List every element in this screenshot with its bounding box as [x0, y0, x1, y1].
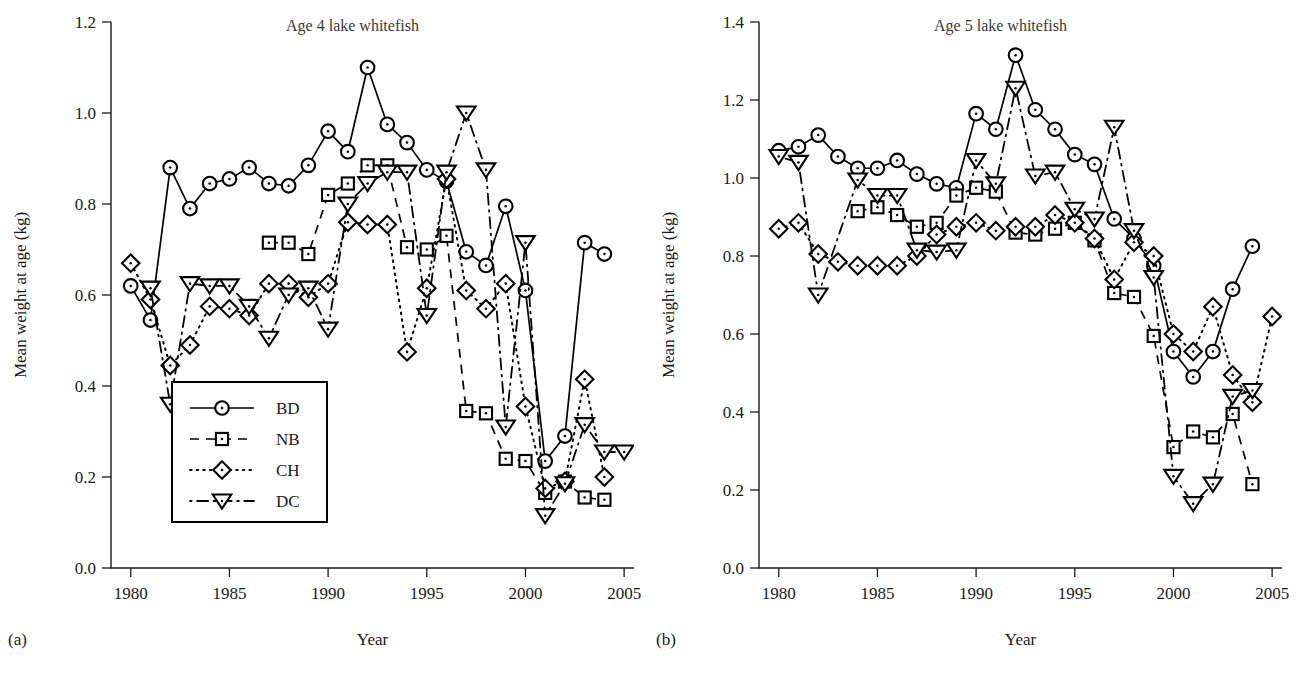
x-axis-label: Year: [1005, 630, 1037, 649]
x-tick-label: 1985: [212, 584, 246, 603]
x-tick-label: 2000: [508, 584, 542, 603]
x-tick-label: 2005: [1255, 584, 1289, 603]
legend: BDNBCHDC: [172, 382, 327, 522]
chart-a: 0.00.20.40.60.81.01.21980198519901995200…: [0, 0, 648, 678]
x-tick-label: 1980: [114, 584, 148, 603]
y-tick-label: 1.2: [75, 13, 96, 32]
x-tick-label: 1990: [311, 584, 345, 603]
x-axis-label: Year: [357, 630, 389, 649]
y-tick-label: 1.4: [723, 13, 745, 32]
legend-label: BD: [276, 399, 300, 418]
y-tick-label: 0.6: [723, 325, 744, 344]
x-tick-label: 1995: [1058, 584, 1092, 603]
chart-title: Age 4 lake whitefish: [286, 17, 419, 35]
series-nb: [852, 182, 1259, 491]
legend-label: NB: [276, 430, 300, 449]
y-tick-label: 0.4: [75, 377, 97, 396]
panel-a: 0.00.20.40.60.81.01.21980198519901995200…: [0, 0, 648, 678]
y-tick-label: 1.0: [723, 169, 744, 188]
series-ch: [770, 206, 1281, 411]
x-tick-label: 2000: [1156, 584, 1190, 603]
y-tick-label: 0.2: [723, 481, 744, 500]
panel-tag: (b): [656, 630, 676, 649]
figure-two-panel-lake-whitefish: 0.00.20.40.60.81.01.21980198519901995200…: [0, 0, 1296, 678]
x-tick-label: 1995: [410, 584, 444, 603]
plot-area: [769, 48, 1280, 511]
legend-label: DC: [276, 492, 300, 511]
legend-label: CH: [276, 461, 300, 480]
y-tick-label: 0.6: [75, 286, 96, 305]
x-tick-label: 2005: [607, 584, 641, 603]
y-tick-label: 0.8: [75, 195, 96, 214]
x-tick-label: 1985: [860, 584, 894, 603]
x-tick-label: 1980: [762, 584, 796, 603]
series-dc: [769, 82, 1261, 511]
panel-b: 0.00.20.40.60.81.01.21.41980198519901995…: [648, 0, 1296, 678]
axes: 0.00.20.40.60.81.01.21980198519901995200…: [75, 13, 641, 603]
y-axis-label: Mean weight at age (kg): [11, 212, 30, 378]
y-tick-label: 0.8: [723, 247, 744, 266]
y-tick-label: 0.2: [75, 468, 96, 487]
y-tick-label: 0.0: [723, 559, 744, 578]
chart-b: 0.00.20.40.60.81.01.21.41980198519901995…: [648, 0, 1296, 678]
y-tick-label: 0.4: [723, 403, 745, 422]
x-tick-label: 1990: [959, 584, 993, 603]
chart-title: Age 5 lake whitefish: [934, 17, 1067, 35]
panel-tag: (a): [8, 630, 27, 649]
y-tick-label: 0.0: [75, 559, 96, 578]
y-tick-label: 1.2: [723, 91, 744, 110]
y-axis-label: Mean weight at age (kg): [659, 212, 678, 378]
y-tick-label: 1.0: [75, 104, 96, 123]
